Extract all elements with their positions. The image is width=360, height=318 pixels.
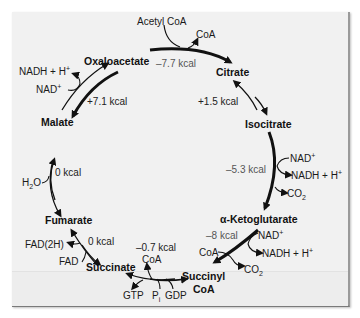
cofactor-nad-malate: NAD+ xyxy=(36,84,61,95)
acetyl-coa-in xyxy=(164,25,180,47)
cofactor-nadh-akg: NADH + H+ xyxy=(262,248,313,259)
cofactor-fad2h: FAD(2H) xyxy=(25,239,64,250)
compound-malate: Malate xyxy=(41,116,74,128)
cofactor-coa-akg: CoA xyxy=(199,247,218,258)
nadh-out-isocitrate xyxy=(277,166,290,175)
arrow-isocitrate-akg xyxy=(265,132,275,208)
coa-out-succinyl xyxy=(147,265,152,279)
cofactor-coa-succinyl: CoA xyxy=(142,254,161,265)
co2-out-isocitrate xyxy=(275,187,286,193)
energy-isocitrate-akg: –5.3 kcal xyxy=(226,164,266,175)
energy-succinate-fumarate: 0 kcal xyxy=(88,236,114,247)
cofactor-co2-akg: CO2 xyxy=(244,264,263,275)
cofactor-gdp: GDP xyxy=(165,290,187,301)
energy-malate-oxaloacetate: +7.1 kcal xyxy=(87,96,127,107)
arrow-oxaloacetate-malate xyxy=(73,72,118,116)
energy-akg-succinylcoa: –8 kcal xyxy=(206,230,238,241)
gtp-out xyxy=(133,280,143,288)
fad2h-out xyxy=(69,243,80,244)
energy-succinylcoa-succinate: –0.7 kcal xyxy=(136,242,176,253)
coa-out xyxy=(188,40,197,48)
cofactor-nadh-isocitrate: NADH + H+ xyxy=(291,170,342,181)
cofactor-fad: FAD xyxy=(59,256,78,267)
cofactor-nad-isocitrate: NAD+ xyxy=(290,153,315,164)
compound-succinate: Succinate xyxy=(86,261,136,273)
arrow-citrate-isocitrate-fwd xyxy=(255,97,266,113)
cofactor-h2o: H2O xyxy=(22,177,41,188)
nad-in-malate xyxy=(68,84,80,90)
cofactor-gtp: GTP xyxy=(123,290,144,301)
energy-oxaloacetate-citrate: –7.7 kcal xyxy=(156,58,196,69)
compound-citrate: Citrate xyxy=(216,66,249,78)
energy-fumarate-malate: 0 kcal xyxy=(55,167,81,178)
cofactor-co2-isocitrate: CO2 xyxy=(287,188,306,199)
compound-fumarate: Fumarate xyxy=(45,214,92,226)
compound-succinyl-coa-line1: Succinyl xyxy=(182,270,225,282)
compound-isocitrate: Isocitrate xyxy=(245,118,292,130)
nadh-out-akg xyxy=(248,244,261,253)
cofactor-pi: Pi xyxy=(152,290,160,301)
co2-out-akg xyxy=(233,260,243,266)
energy-citrate-isocitrate: +1.5 kcal xyxy=(198,96,238,107)
h2o-in xyxy=(42,176,49,183)
nadh-out-malate xyxy=(74,74,80,84)
compound-alpha-ketoglutarate: α-Ketoglutarate xyxy=(220,213,298,225)
cofactor-acetyl-coa: Acetyl CoA xyxy=(137,16,186,27)
nad-in-isocitrate xyxy=(277,158,289,166)
cofactor-nad-akg: NAD+ xyxy=(258,230,283,241)
cofactor-coa-top: CoA xyxy=(196,29,215,40)
compound-oxaloacetate: Oxaloacetate xyxy=(84,55,149,67)
compound-succinyl-coa-line2: CoA xyxy=(193,283,215,295)
cofactor-nadh-malate: NADH + H+ xyxy=(19,66,70,77)
